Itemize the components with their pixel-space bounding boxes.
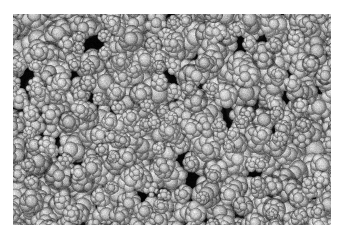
micrograph-canvas [13,14,331,225]
micrograph-image [13,14,331,225]
figure-root [0,0,343,236]
